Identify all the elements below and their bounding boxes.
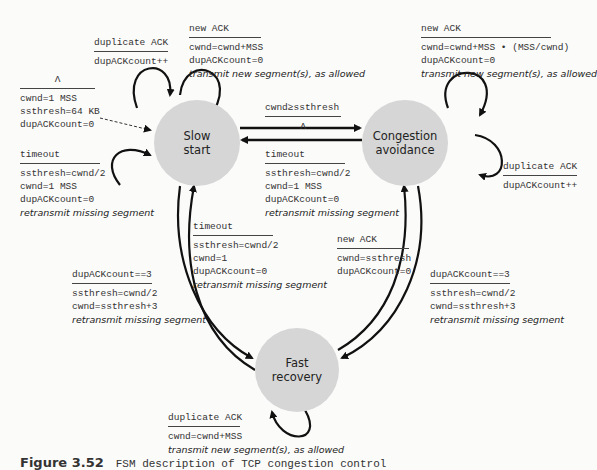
label-ss-dup-ack: duplicate ACK dupACKcount++ — [94, 36, 168, 68]
label-ca-to-fr: dupACKcount==3 ssthresh=cwnd/2 cwnd=ssth… — [430, 268, 564, 326]
label-ss-timeout: timeout ssthresh=cwnd/2 cwnd=1 MSS dupAC… — [20, 148, 154, 219]
label-fr-dup-ack: duplicate ACK cwnd=cwnd+MSS transmit new… — [168, 411, 344, 456]
state-fast-recovery: Fast recovery — [255, 328, 339, 412]
label-fr-to-ss-timeout: timeout ssthresh=cwnd/2 cwnd=1 dupACKcou… — [193, 220, 327, 291]
init-arrow — [100, 118, 150, 130]
label-ss-new-ack: new ACK cwnd=cwnd+MSS dupACKcount=0 tran… — [189, 22, 365, 80]
label-ca-new-ack: new ACK cwnd=cwnd+MSS • (MSS/cwnd) dupAC… — [421, 22, 597, 80]
ca-dup-ack-loop — [475, 135, 502, 176]
ss-dup-ack-loop — [134, 68, 171, 108]
state-slow-start: Slow start — [154, 100, 240, 186]
label-ss-to-fr: dupACKcount==3 ssthresh=cwnd/2 cwnd=ssth… — [72, 268, 206, 326]
label-ca-to-ss-timeout: timeout ssthresh=cwnd/2 cwnd=1 MSS dupAC… — [265, 148, 399, 219]
label-init: Λ cwnd=1 MSS ssthresh=64 KB dupACKcount=… — [20, 73, 100, 131]
label-ss-to-ca: cwnd≥ssthresh Λ — [265, 101, 341, 133]
event: Λ — [20, 73, 95, 89]
figure-caption: Figure 3.52FSM description of TCP conges… — [20, 455, 386, 470]
label-ca-dup-ack: duplicate ACK dupACKcount++ — [503, 160, 577, 192]
label-fr-to-ca-new-ack: new ACK cwnd=ssthresh dupACKcount=0 — [337, 233, 411, 278]
